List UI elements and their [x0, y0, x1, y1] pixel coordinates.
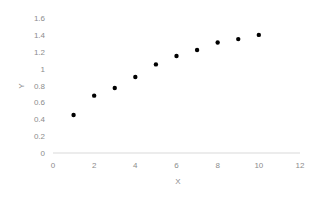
y-axis-title: Y	[17, 83, 26, 89]
data-point	[133, 75, 137, 79]
y-tick-label: 1.4	[34, 31, 46, 40]
data-point	[174, 54, 178, 58]
x-tick-label: 0	[51, 161, 56, 170]
y-tick-label: 1	[41, 65, 46, 74]
x-tick-label: 6	[174, 161, 179, 170]
data-point	[215, 40, 219, 44]
y-tick-label: 0	[41, 149, 46, 158]
data-point	[113, 86, 117, 90]
data-point	[257, 33, 261, 37]
y-axis-ticks: 00.20.40.60.811.21.41.6	[34, 14, 46, 158]
x-tick-label: 4	[133, 161, 138, 170]
data-point	[71, 113, 75, 117]
x-axis-title: X	[175, 177, 181, 186]
y-tick-label: 1.2	[34, 48, 46, 57]
y-tick-label: 0.8	[34, 82, 46, 91]
data-point	[195, 48, 199, 52]
data-point	[236, 37, 240, 41]
x-axis-ticks: 024681012	[51, 161, 305, 170]
data-point	[92, 93, 96, 97]
y-tick-label: 0.2	[34, 132, 46, 141]
y-tick-label: 0.4	[34, 115, 46, 124]
data-point	[154, 62, 158, 66]
x-tick-label: 8	[215, 161, 220, 170]
x-tick-label: 2	[92, 161, 97, 170]
x-tick-label: 10	[254, 161, 263, 170]
y-tick-label: 1.6	[34, 14, 46, 23]
scatter-chart: 024681012 00.20.40.60.811.21.41.6 X Y	[0, 0, 322, 199]
y-tick-label: 0.6	[34, 98, 46, 107]
plot-area	[53, 33, 300, 153]
x-tick-label: 12	[296, 161, 305, 170]
